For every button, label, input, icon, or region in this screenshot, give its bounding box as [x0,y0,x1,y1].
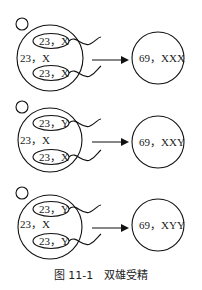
sperm-top-label: 23，Y [39,203,69,215]
zygote-label: 69，XYY [139,219,185,231]
egg-label: 23，X [20,134,50,146]
sperm-top-label: 23，Y [39,117,69,129]
egg-label: 23，X [20,218,50,230]
egg-label: 23，X [20,52,50,64]
sperm-tail-bottom [69,234,101,245]
sperm-tail-bottom [69,66,101,77]
polar-body [16,18,28,30]
sperm-top-label: 23，X [39,35,69,47]
dispermy-diagram: 23，X 23，X 23，X 69，XXX 23，Y 23，X 23，X 69，… [0,0,202,290]
sperm-tail-top [69,37,101,45]
polar-body [16,187,28,199]
sperm-bottom-label: 23，X [39,151,69,163]
zygote-label: 69，XXX [139,52,185,64]
polar-body [16,101,28,113]
figure-caption: 图 11-1 双雄受精 [54,268,148,282]
sperm-tail-bottom [69,150,101,161]
sperm-tail-top [69,119,101,127]
zygote-label: 69，XXY [139,136,185,148]
sperm-bottom-label: 23，Y [39,235,69,247]
sperm-bottom-label: 23，X [39,67,69,79]
